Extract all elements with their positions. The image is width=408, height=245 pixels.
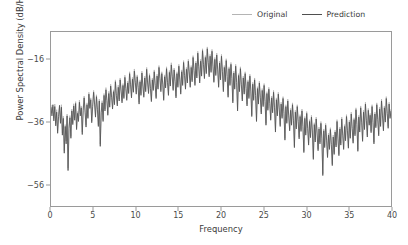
x-tick-label: 30 [301,211,311,220]
x-axis-title: Frequency [50,224,392,234]
x-tick-label: 5 [90,211,95,220]
x-tick-mark [50,207,51,211]
x-tick-label: 25 [259,211,269,220]
x-tick-mark [349,207,350,211]
x-tick-label: 35 [344,211,354,220]
y-tick-label: −16 [27,55,44,64]
legend-entry-prediction: Prediction [302,11,366,19]
series-line-prediction [51,49,391,176]
legend-line-prediction [302,14,322,15]
x-tick-mark [178,207,179,211]
x-tick-mark [135,207,136,211]
x-tick-mark [392,207,393,211]
y-tick-mark [46,122,50,123]
x-tick-mark [92,207,93,211]
x-tick-label: 40 [387,211,397,220]
legend-label-prediction: Prediction [327,11,366,19]
x-tick-mark [263,207,264,211]
y-tick-mark [46,59,50,60]
y-tick-label: −36 [27,118,44,127]
chart-legend: Original Prediction [232,6,365,24]
series-canvas [51,32,391,206]
y-tick-label: −56 [27,181,44,190]
x-tick-mark [306,207,307,211]
psd-chart-figure: Original Prediction −16−36−56 0510152025… [0,0,408,245]
legend-line-original [232,14,252,15]
x-tick-label: 15 [173,211,183,220]
legend-entry-original: Original [232,11,288,19]
y-axis-title: Power Spectral Density (dB/Hz) [15,0,25,143]
x-tick-mark [221,207,222,211]
x-tick-label: 0 [47,211,52,220]
y-tick-mark [46,185,50,186]
x-axis-ticks: 0510152025303540 [0,211,408,225]
legend-label-original: Original [257,11,288,19]
x-tick-label: 10 [130,211,140,220]
plot-area [50,31,392,207]
x-tick-label: 20 [216,211,226,220]
